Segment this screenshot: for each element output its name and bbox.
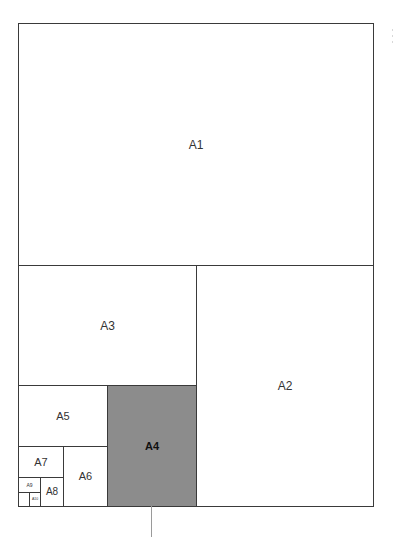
sheet-a1: A1 bbox=[18, 23, 374, 266]
sheet-a9: A9 bbox=[18, 477, 41, 493]
sheet-label-a1: A1 bbox=[189, 139, 204, 151]
sheet-label-a7: A7 bbox=[34, 457, 47, 468]
sheet-label-a8: A8 bbox=[46, 487, 58, 497]
sheet-label-a5: A5 bbox=[56, 411, 69, 422]
sheet-label-a10: A10 bbox=[32, 498, 38, 502]
edge-mark bbox=[392, 41, 393, 43]
sheet-label-a6: A6 bbox=[79, 471, 92, 482]
sheet-a4: A4 bbox=[107, 385, 197, 507]
sheet-a5: A5 bbox=[18, 385, 108, 447]
sheet-label-a9: A9 bbox=[26, 483, 32, 488]
sheet-a10: A10 bbox=[29, 492, 41, 507]
sheet-label-a2: A2 bbox=[278, 380, 293, 392]
sheet-a3: A3 bbox=[18, 265, 197, 386]
center-guide-line bbox=[151, 506, 152, 537]
edge-mark bbox=[392, 29, 393, 31]
sheet-a8: A8 bbox=[40, 477, 64, 507]
sheet-label-a3: A3 bbox=[100, 320, 115, 332]
sheet-label-a4: A4 bbox=[145, 441, 159, 452]
sheet-a2: A2 bbox=[196, 265, 374, 507]
sheet-a10-remainder bbox=[18, 492, 30, 507]
sheet-a6: A6 bbox=[63, 446, 108, 507]
edge-mark bbox=[392, 35, 393, 37]
sheet-a7: A7 bbox=[18, 446, 64, 478]
